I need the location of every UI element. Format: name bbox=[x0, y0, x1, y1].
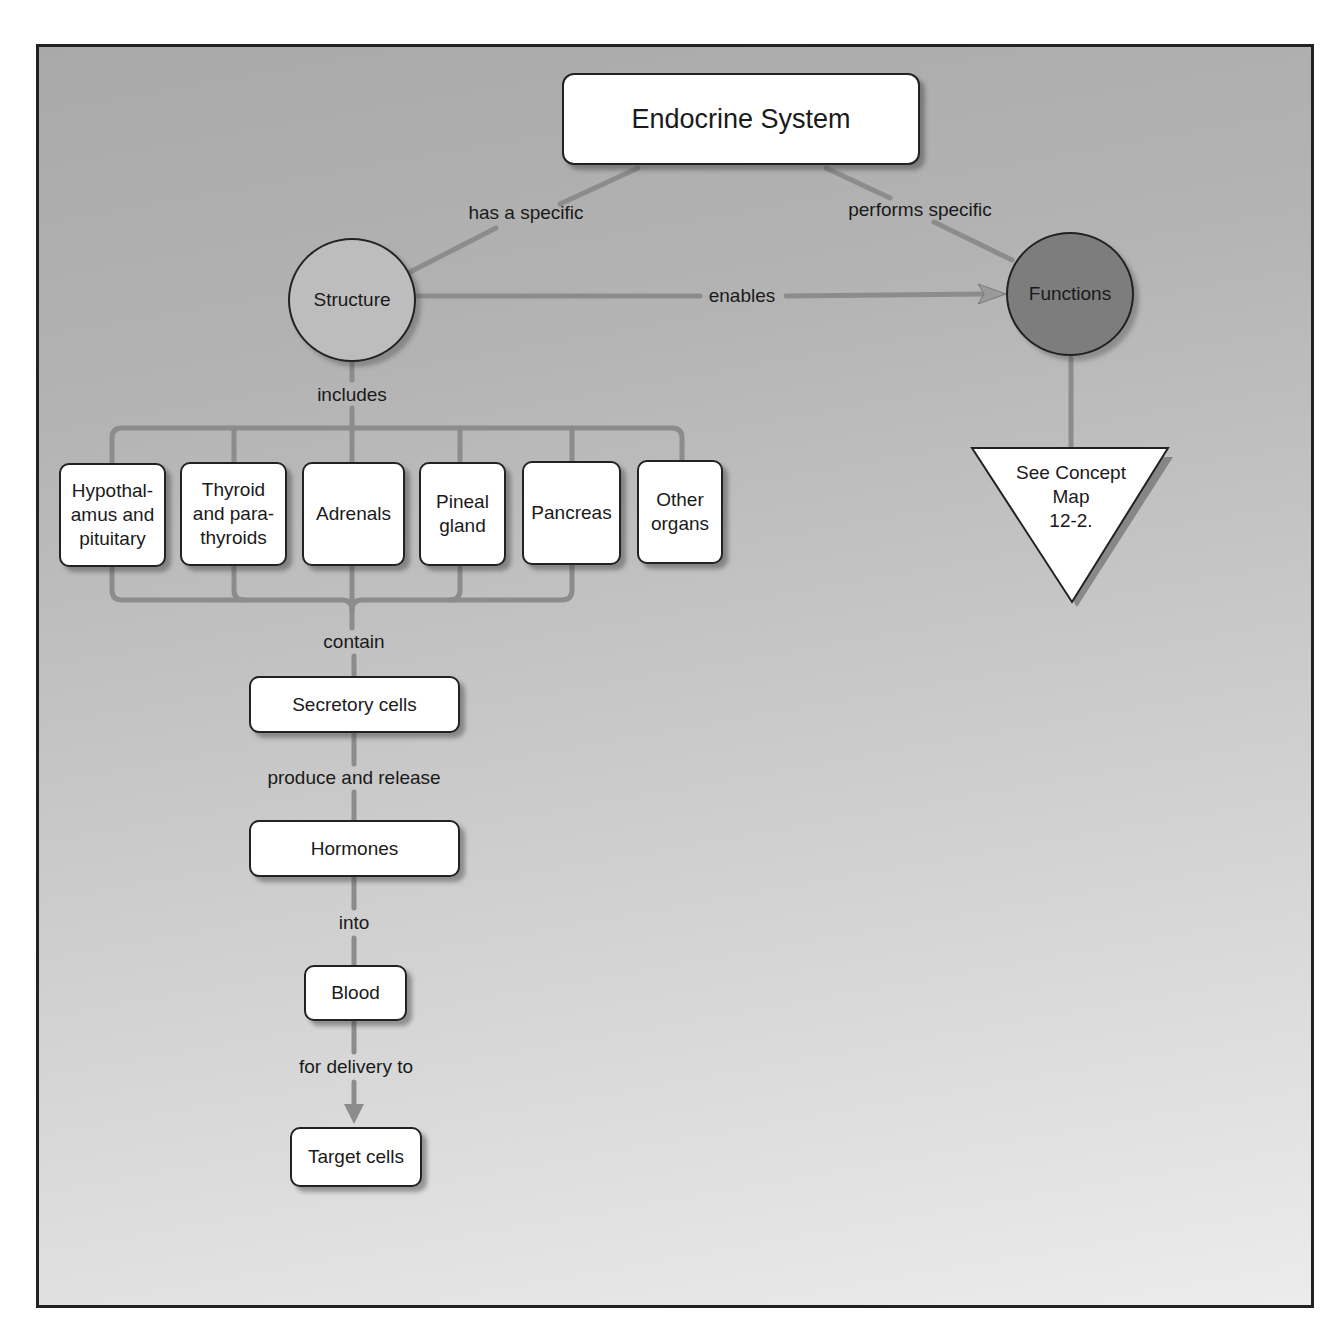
node-endocrine-system-label: Endocrine System bbox=[631, 107, 850, 131]
organ-label-line: Pineal bbox=[436, 490, 489, 514]
node-structure[interactable]: Structure bbox=[288, 238, 416, 362]
organ-label-line: Pancreas bbox=[531, 501, 611, 525]
connector-root-performs-specific bbox=[826, 168, 890, 198]
node-hormones-label: Hormones bbox=[311, 837, 399, 861]
node-organ-pancreas[interactable]: Pancreas bbox=[522, 461, 621, 565]
node-secretory-cells-label: Secretory cells bbox=[292, 693, 417, 717]
connector-has-a-specific-structure bbox=[410, 228, 496, 272]
see-concept-map-line: See Concept bbox=[1016, 461, 1126, 485]
link-label-contain: contain bbox=[323, 631, 384, 653]
link-label-has-a-specific: has a specific bbox=[468, 202, 583, 224]
arrow-head-icon bbox=[344, 1104, 364, 1124]
node-blood-label: Blood bbox=[331, 981, 380, 1005]
node-blood[interactable]: Blood bbox=[304, 965, 407, 1021]
link-label-into: into bbox=[339, 912, 370, 934]
node-organ-other-organs[interactable]: Other organs bbox=[637, 460, 723, 564]
organ-label-line: thyroids bbox=[193, 526, 274, 550]
organ-label-line: amus and bbox=[71, 503, 154, 527]
connector-enables-functions bbox=[786, 294, 984, 296]
node-secretory-cells[interactable]: Secretory cells bbox=[249, 676, 460, 733]
node-target-cells-label: Target cells bbox=[308, 1145, 404, 1169]
node-functions[interactable]: Functions bbox=[1006, 232, 1134, 356]
node-functions-label: Functions bbox=[1029, 283, 1111, 305]
organ-label-line: Thyroid bbox=[193, 478, 274, 502]
organ-label-line: organs bbox=[651, 512, 709, 536]
node-hormones[interactable]: Hormones bbox=[249, 820, 460, 877]
node-target-cells[interactable]: Target cells bbox=[290, 1127, 422, 1187]
connector-layer bbox=[0, 0, 1344, 1337]
bracket-stem bbox=[450, 566, 460, 600]
organ-label-line: gland bbox=[436, 514, 489, 538]
see-concept-map-line: Map bbox=[1016, 485, 1126, 509]
connector-performs-specific-functions bbox=[934, 222, 1012, 260]
organ-label-line: Hypothal- bbox=[71, 479, 154, 503]
node-organ-hypothalamus-pituitary[interactable]: Hypothal- amus and pituitary bbox=[59, 463, 166, 567]
organ-label-line: Adrenals bbox=[316, 502, 391, 526]
organ-label-line: pituitary bbox=[71, 527, 154, 551]
node-organ-thyroid-parathyroids[interactable]: Thyroid and para- thyroids bbox=[180, 462, 287, 566]
node-organ-adrenals[interactable]: Adrenals bbox=[302, 462, 405, 566]
organ-label-line: Other bbox=[651, 488, 709, 512]
node-structure-label: Structure bbox=[313, 289, 390, 311]
connector-root-has-a-specific bbox=[560, 168, 638, 204]
organ-label-line: and para- bbox=[193, 502, 274, 526]
see-concept-map-text: See Concept Map 12-2. bbox=[1016, 461, 1126, 533]
node-endocrine-system[interactable]: Endocrine System bbox=[562, 73, 920, 165]
node-organ-pineal-gland[interactable]: Pineal gland bbox=[419, 462, 506, 566]
link-label-performs-specific: performs specific bbox=[848, 199, 992, 221]
bracket-stem bbox=[234, 566, 244, 600]
see-concept-map-line: 12-2. bbox=[1016, 509, 1126, 533]
top-bracket bbox=[112, 428, 682, 462]
link-label-enables: enables bbox=[709, 285, 776, 307]
link-label-includes: includes bbox=[317, 384, 387, 406]
link-label-for-delivery-to: for delivery to bbox=[299, 1056, 413, 1078]
link-label-produce-and-release: produce and release bbox=[267, 767, 440, 789]
